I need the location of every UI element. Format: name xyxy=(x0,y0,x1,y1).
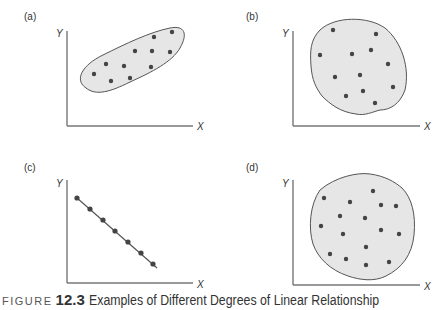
panel-d-label: (d) xyxy=(246,162,258,173)
data-point xyxy=(149,65,153,69)
data-point xyxy=(394,204,398,208)
data-point xyxy=(170,30,174,34)
data-point xyxy=(371,189,375,193)
panel-b-y-label: Y xyxy=(282,28,290,39)
panel-c-x-label: X xyxy=(196,279,204,290)
panel-c-y-label: Y xyxy=(56,178,64,189)
data-point xyxy=(397,232,401,236)
figure-caption: FIGURE12.3Examples of Different Degrees … xyxy=(2,291,418,309)
panel-d-x-label: X xyxy=(423,281,431,290)
data-point xyxy=(74,195,79,200)
data-point xyxy=(112,228,117,233)
data-point xyxy=(122,64,126,68)
data-point xyxy=(150,261,155,266)
data-point xyxy=(364,245,368,249)
data-point xyxy=(128,76,132,80)
figure-canvas: (a) Y X (b) Y X (c) Y X (d) Y X xyxy=(0,0,447,290)
data-point xyxy=(109,79,113,83)
data-point xyxy=(386,62,390,66)
data-point xyxy=(100,217,105,222)
data-point xyxy=(92,72,96,76)
panel-a: (a) Y X xyxy=(24,11,204,132)
data-point xyxy=(138,250,143,255)
panel-a-x-label: X xyxy=(196,121,204,132)
data-point xyxy=(338,214,342,218)
panel-d: (d) Y X xyxy=(246,162,431,290)
data-point xyxy=(341,232,345,236)
data-point xyxy=(350,52,354,56)
panel-b-label: (b) xyxy=(246,11,258,22)
data-point xyxy=(152,35,156,39)
data-point xyxy=(333,75,337,79)
panel-b-x-label: X xyxy=(423,121,431,132)
data-point xyxy=(87,206,92,211)
panel-a-label: (a) xyxy=(24,11,36,22)
data-point xyxy=(363,216,367,220)
panel-d-region xyxy=(310,174,414,280)
panel-c: (c) Y X xyxy=(24,162,204,290)
data-point xyxy=(319,224,323,228)
data-point xyxy=(391,85,395,89)
data-point xyxy=(358,73,362,77)
panel-d-y-label: Y xyxy=(282,178,290,189)
data-point xyxy=(374,32,378,36)
caption-number: 12.3 xyxy=(56,291,85,308)
data-point xyxy=(379,228,383,232)
panel-b-region xyxy=(311,19,407,114)
data-point xyxy=(369,48,373,52)
data-point xyxy=(387,260,391,264)
data-point xyxy=(104,62,108,66)
data-point xyxy=(125,239,130,244)
panel-c-label: (c) xyxy=(24,162,36,173)
data-point xyxy=(373,101,377,105)
data-point xyxy=(361,89,365,93)
data-point xyxy=(344,94,348,98)
panel-a-region xyxy=(80,27,184,92)
data-point xyxy=(133,49,137,53)
data-point xyxy=(379,203,383,207)
data-point xyxy=(150,49,154,53)
data-point xyxy=(331,28,335,32)
panel-b: (b) Y X xyxy=(246,11,431,132)
data-point xyxy=(328,252,332,256)
panel-a-y-label: Y xyxy=(56,28,64,39)
data-point xyxy=(344,257,348,261)
caption-text: Examples of Different Degrees of Linear … xyxy=(89,292,379,308)
caption-prefix: FIGURE xyxy=(2,295,53,307)
data-point xyxy=(318,53,322,57)
data-point xyxy=(364,263,368,267)
data-point xyxy=(168,50,172,54)
data-point xyxy=(348,200,352,204)
data-point xyxy=(322,196,326,200)
